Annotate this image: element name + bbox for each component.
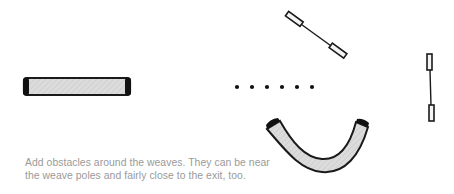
caption-line-2: the weave poles and fairly close to the …: [25, 169, 325, 182]
instruction-caption: Add obstacles around the weaves. They ca…: [25, 156, 325, 182]
diagonal-jump-icon: [285, 11, 346, 58]
weave-pole-dot: [280, 85, 284, 89]
weave-pole-dot: [265, 85, 269, 89]
vertical-jump-icon: [427, 54, 434, 121]
weave-pole-dot: [310, 85, 314, 89]
straight-tunnel-icon: [23, 78, 131, 96]
caption-line-1: Add obstacles around the weaves. They ca…: [25, 156, 325, 169]
weave-poles-icon: [235, 85, 314, 89]
weave-pole-dot: [295, 85, 299, 89]
weave-pole-dot: [235, 85, 239, 89]
weave-pole-dot: [250, 85, 254, 89]
